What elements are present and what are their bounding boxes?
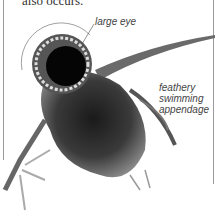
left-leg (5, 120, 45, 190)
eye-pointer-line (82, 24, 94, 44)
antenna (95, 35, 215, 80)
label-line: feathery (159, 82, 209, 93)
label-line: appendage (159, 104, 209, 115)
eye-pupil (46, 46, 86, 86)
label-large-eye: large eye (95, 16, 136, 27)
label-line: swimming (159, 93, 209, 104)
label-feathery-appendage: feathery swimming appendage (159, 82, 209, 115)
